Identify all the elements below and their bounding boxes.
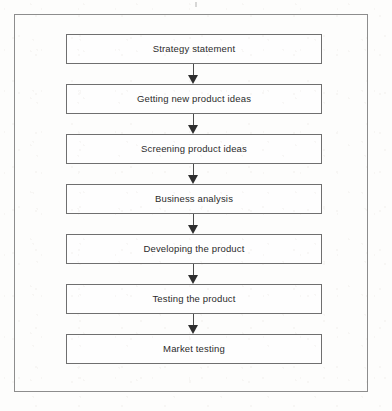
- down-arrow-icon: [188, 75, 198, 84]
- process-box-label: Testing the product: [152, 294, 235, 304]
- flowchart-page: Strategy statement Getting new product i…: [0, 0, 392, 411]
- flow-step-3: Screening product ideas: [66, 134, 322, 164]
- connector-5-to-6: [66, 264, 322, 284]
- process-box-developing-the-product[interactable]: Developing the product: [66, 234, 322, 264]
- connector-1-to-2: [66, 64, 322, 84]
- process-box-label: Developing the product: [143, 244, 244, 254]
- process-box-market-testing[interactable]: Market testing: [66, 334, 322, 364]
- connector-4-to-5: [66, 214, 322, 234]
- process-box-label: Getting new product ideas: [137, 94, 251, 104]
- process-box-screening-product-ideas[interactable]: Screening product ideas: [66, 134, 322, 164]
- flow-step-2: Getting new product ideas: [66, 84, 322, 114]
- process-box-label: Business analysis: [155, 194, 233, 204]
- down-arrow-icon: [188, 325, 198, 334]
- process-box-label: Screening product ideas: [141, 144, 247, 154]
- flow-step-4: Business analysis: [66, 184, 322, 214]
- down-arrow-icon: [188, 125, 198, 134]
- process-box-business-analysis[interactable]: Business analysis: [66, 184, 322, 214]
- down-arrow-icon: [188, 175, 198, 184]
- down-arrow-icon: [188, 225, 198, 234]
- figure-frame: Strategy statement Getting new product i…: [14, 14, 368, 392]
- process-box-strategy-statement[interactable]: Strategy statement: [66, 34, 322, 64]
- scan-artifact-speck: [195, 2, 197, 7]
- process-box-getting-new-product-ideas[interactable]: Getting new product ideas: [66, 84, 322, 114]
- connector-6-to-7: [66, 314, 322, 334]
- flow-step-1: Strategy statement: [66, 34, 322, 64]
- process-box-testing-the-product[interactable]: Testing the product: [66, 284, 322, 314]
- connector-2-to-3: [66, 114, 322, 134]
- process-box-label: Strategy statement: [153, 44, 235, 54]
- down-arrow-icon: [188, 275, 198, 284]
- process-box-label: Market testing: [163, 344, 225, 354]
- flowchart-sequence: Strategy statement Getting new product i…: [66, 34, 322, 364]
- flow-step-7: Market testing: [66, 334, 322, 364]
- flow-step-6: Testing the product: [66, 284, 322, 314]
- flow-step-5: Developing the product: [66, 234, 322, 264]
- connector-3-to-4: [66, 164, 322, 184]
